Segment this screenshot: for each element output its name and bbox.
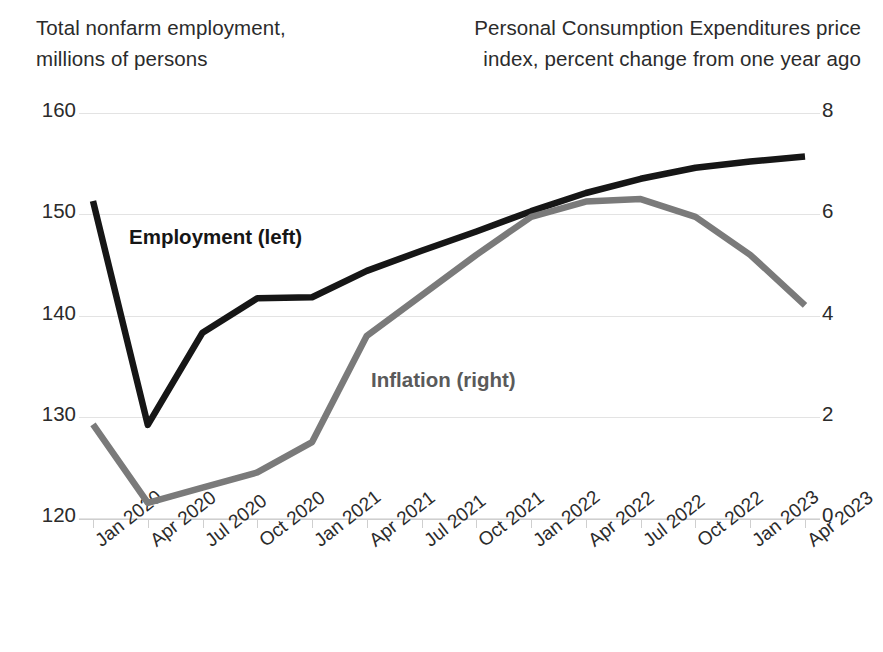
series-label-employment: Employment (left) [129, 225, 302, 249]
plot-area [0, 0, 883, 652]
series-label-inflation: Inflation (right) [371, 368, 516, 392]
chart-container: Total nonfarm employment, millions of pe… [0, 0, 883, 652]
